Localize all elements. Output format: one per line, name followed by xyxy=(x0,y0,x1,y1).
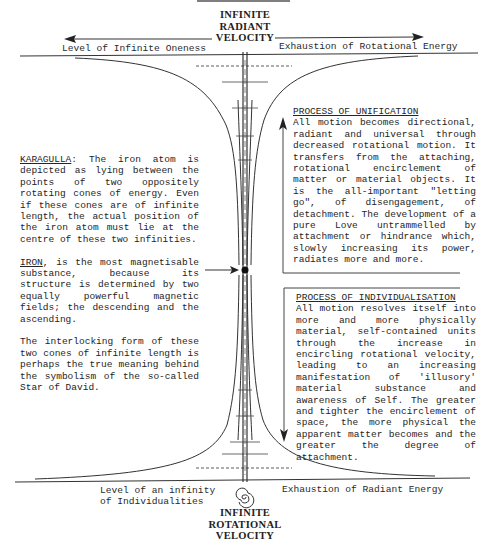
bottom-left-label-line: of Individualities xyxy=(100,496,215,507)
interlocking-paragraph: The interlocking form of these two cones… xyxy=(20,336,199,393)
bottom-title-line: ROTATIONAL xyxy=(200,519,290,531)
unification-text: All motion becomes directional, radiant … xyxy=(293,117,476,265)
pointer-arrow-icon xyxy=(205,266,239,274)
top-right-label: Exhaustion of Rotational Energy xyxy=(279,41,457,52)
bottom-title-line: VELOCITY xyxy=(200,530,290,542)
bottom-right-label: Exhaustion of Radiant Energy xyxy=(282,484,443,495)
top-title-line: RADIANT xyxy=(205,21,285,33)
top-title-line: VELOCITY xyxy=(205,32,285,44)
unification-heading: PROCESS OF UNIFICATION xyxy=(293,106,476,117)
top-left-label: Level of Infinite Oneness xyxy=(62,43,206,54)
top-title: INFINITE RADIANT VELOCITY xyxy=(205,9,285,44)
iron-heading: IRON xyxy=(20,257,43,268)
karagulla-paragraph: KARAGULLA: The iron atom is depicted as … xyxy=(20,154,199,245)
spiral-icon xyxy=(236,488,254,508)
bottom-left-label: Level of an infinity of Individualities xyxy=(100,485,215,507)
top-title-line: INFINITE xyxy=(205,9,285,21)
arrow-left-icon xyxy=(64,35,212,43)
individualisation-text: All motion resolves itself into more and… xyxy=(296,303,476,463)
unification-block: PROCESS OF UNIFICATION All motion become… xyxy=(293,106,476,266)
karagulla-heading: KARAGULLA xyxy=(20,154,71,165)
arrow-right-icon xyxy=(275,33,424,41)
iron-paragraph: IRON, is the most magnetisable substance… xyxy=(20,257,199,325)
iron-text: , is the most magnetisable substance, be… xyxy=(20,257,199,325)
individualisation-block: PROCESS OF INDIVIDUALISATION All motion … xyxy=(296,292,476,463)
bottom-title-line: INFINITE xyxy=(200,507,290,519)
left-column: KARAGULLA: The iron atom is depicted as … xyxy=(20,154,199,405)
iron-atom-dot-icon xyxy=(242,267,249,274)
bottom-title: INFINITE ROTATIONAL VELOCITY xyxy=(200,507,290,542)
karagulla-text: : The iron atom is depicted as lying bet… xyxy=(20,154,199,245)
individualisation-heading: PROCESS OF INDIVIDUALISATION xyxy=(296,292,476,303)
bottom-left-label-line: Level of an infinity xyxy=(100,485,215,496)
